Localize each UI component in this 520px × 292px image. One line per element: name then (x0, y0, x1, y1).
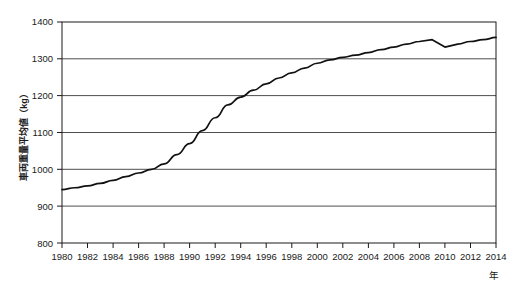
x-tick-label: 1990 (179, 251, 200, 262)
x-tick-marks (62, 243, 496, 248)
y-tick-label: 1400 (32, 16, 53, 27)
x-tick-label: 1994 (230, 251, 251, 262)
y-tick-label: 900 (37, 201, 53, 212)
vehicle-weight-line-chart: 車両重量平均値（kg） 1400 1300 1200 1100 1000 900… (0, 0, 520, 292)
y-tick-label: 1000 (32, 164, 53, 175)
x-tick-label: 1998 (281, 251, 302, 262)
x-axis-title: 年 (489, 270, 499, 281)
x-axis-title-group: 年 (489, 270, 499, 281)
x-tick-label: 1982 (77, 251, 98, 262)
y-tick-label: 1200 (32, 90, 53, 101)
x-tick-label: 2010 (434, 251, 455, 262)
x-tick-label: 1980 (51, 251, 72, 262)
y-tick-marks (57, 22, 62, 243)
y-tick-label: 1100 (33, 127, 53, 138)
x-tick-label: 2000 (307, 251, 328, 262)
x-tick-label: 1992 (205, 251, 226, 262)
x-tick-label: 2004 (358, 251, 379, 262)
x-tick-label: 1986 (128, 251, 149, 262)
x-tick-label: 2002 (332, 251, 353, 262)
horizontal-gridlines (62, 59, 496, 206)
y-tick-label: 800 (37, 238, 53, 249)
y-tick-label: 1300 (32, 53, 53, 64)
series-group (62, 37, 496, 189)
x-tick-label: 1988 (154, 251, 175, 262)
x-tick-label: 2014 (485, 251, 506, 262)
chart-page: 車両重量平均値（kg） 1400 1300 1200 1100 1000 900… (0, 0, 520, 292)
x-tick-label: 2012 (460, 251, 481, 262)
x-tick-label: 1996 (256, 251, 277, 262)
x-tick-label: 1984 (103, 251, 124, 262)
series-line-vehicle-weight (62, 37, 496, 189)
x-tick-labels: 1980 1982 1984 1986 1988 1990 1992 1994 … (51, 251, 506, 262)
y-axis-title-group: 車両重量平均値（kg） (18, 89, 29, 181)
x-tick-label: 2006 (383, 251, 404, 262)
x-tick-label: 2008 (409, 251, 430, 262)
y-tick-labels: 1400 1300 1200 1100 1000 900 800 (32, 16, 53, 249)
y-axis-title: 車両重量平均値（kg） (18, 89, 29, 181)
